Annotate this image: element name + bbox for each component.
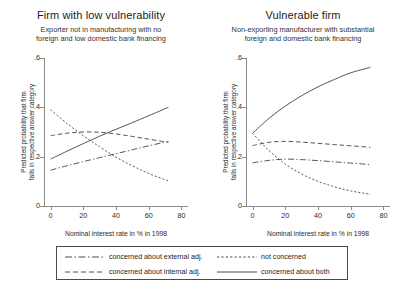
y-tick-label: .4 [224, 102, 242, 111]
legend-label: concerned about internal adj. [109, 268, 201, 276]
legend-item-not-concerned: not concerned [217, 249, 349, 264]
series-line [51, 132, 169, 142]
x-tick [383, 206, 384, 210]
panel-subtitle-line1: Exporter not in manufacturing with no [12, 25, 190, 34]
y-tick [242, 206, 246, 207]
legend-label: concerned about external adj. [109, 253, 202, 261]
y-tick-label: .4 [22, 102, 40, 111]
panels-container: Firm with low vulnerability Exporter not… [0, 0, 405, 240]
y-axis-label: Predicted probability that firm falls in… [20, 58, 40, 206]
x-tick-label: 20 [273, 211, 297, 220]
x-tick-label: 20 [71, 211, 95, 220]
panel-subtitle-line1: Non-exporting manufacturer with substant… [214, 25, 392, 34]
y-axis-label-line2: falls in respective answer category [28, 58, 36, 206]
panel-subtitle: Exporter not in manufacturing with no fo… [0, 25, 202, 43]
legend-row: concerned about external adj. not concer… [57, 249, 347, 264]
legend-line-dashdot-icon [65, 252, 105, 262]
y-tick-label: .2 [224, 152, 242, 161]
x-tick [351, 206, 352, 210]
legend-item-both: concerned about both [217, 264, 349, 279]
plot-area: 0.2.4.6 020406080 Nominal interest rate … [246, 58, 390, 206]
y-tick [40, 206, 44, 207]
legend-line-solid-icon [217, 267, 257, 277]
y-tick-label: 0 [22, 201, 40, 210]
y-tick-label: 0 [224, 201, 242, 210]
series-lines [44, 58, 188, 206]
panel-title: Vulnerable firm [202, 9, 404, 21]
panel-vulnerable-firm: Vulnerable firm Non-exporting manufactur… [202, 0, 404, 240]
x-tick-label: 0 [241, 211, 265, 220]
y-axis-label-line1: Predicted probability that firm [20, 58, 28, 206]
legend-row: concerned about internal adj. concerned … [57, 264, 347, 279]
x-tick [116, 206, 117, 210]
x-tick-label: 60 [339, 211, 363, 220]
x-tick [149, 206, 150, 210]
x-tick-label: 80 [169, 211, 193, 220]
x-tick [285, 206, 286, 210]
series-line [51, 110, 169, 181]
x-tick [83, 206, 84, 210]
x-tick [318, 206, 319, 210]
legend-label: not concerned [261, 253, 306, 261]
panel-low-vulnerability: Firm with low vulnerability Exporter not… [0, 0, 202, 240]
series-line [253, 141, 371, 147]
x-tick-label: 40 [306, 211, 330, 220]
legend: concerned about external adj. not concer… [56, 246, 348, 280]
panel-title: Firm with low vulnerability [0, 9, 202, 21]
plot-area: 0.2.4.6 020406080 Nominal interest rate … [44, 58, 188, 206]
x-tick-label: 40 [104, 211, 128, 220]
legend-label: concerned about both [261, 268, 330, 276]
x-tick-label: 60 [137, 211, 161, 220]
x-tick-label: 80 [371, 211, 395, 220]
y-axis-label-line1: Predicted probability that firm [222, 58, 230, 206]
y-axis-label-line2: falls in respective answer category [230, 58, 238, 206]
x-axis-label: Nominal interest rate in % in 1998 [246, 230, 390, 237]
legend-item-external-adj: concerned about external adj. [65, 249, 215, 264]
y-axis-label: Predicted probability that firm falls in… [222, 58, 242, 206]
legend-item-internal-adj: concerned about internal adj. [65, 264, 215, 279]
x-tick [51, 206, 52, 210]
series-lines [246, 58, 390, 206]
legend-line-dashed-icon [65, 267, 105, 277]
panel-subtitle-line2: foreign and low domestic bank financing [12, 34, 190, 43]
panel-subtitle-line2: foreign and domestic bank financing [214, 34, 392, 43]
y-tick-label: .6 [22, 53, 40, 62]
series-line [253, 67, 371, 133]
figure: Firm with low vulnerability Exporter not… [0, 0, 405, 287]
x-tick [253, 206, 254, 210]
series-line [253, 159, 371, 164]
y-tick-label: .6 [224, 53, 242, 62]
x-axis-label: Nominal interest rate in % in 1998 [44, 230, 188, 237]
x-tick [181, 206, 182, 210]
x-tick-label: 0 [39, 211, 63, 220]
y-tick-label: .2 [22, 152, 40, 161]
legend-line-dotted-icon [217, 252, 257, 262]
panel-subtitle: Non-exporting manufacturer with substant… [202, 25, 404, 43]
series-line [51, 141, 169, 170]
